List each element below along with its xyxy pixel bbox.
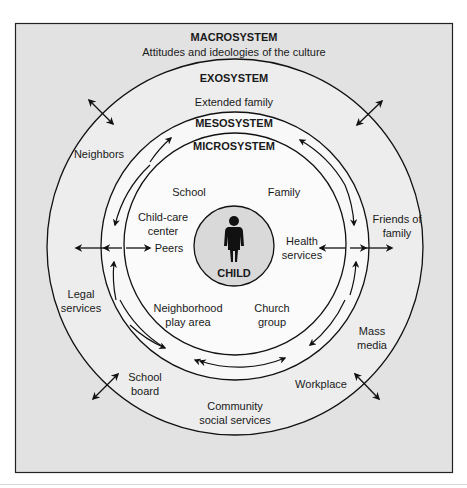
label-family: Family (268, 186, 301, 198)
label-school-board-1: School (128, 371, 162, 383)
label-neighborhood-1: Neighborhood (153, 302, 222, 314)
bottom-rule (0, 484, 467, 485)
label-neighborhood-2: play area (165, 316, 211, 328)
mesosystem-title: MESOSYSTEM (195, 117, 273, 129)
macrosystem-subtitle: Attitudes and ideologies of the culture (142, 46, 325, 58)
label-legal-1: Legal (68, 288, 95, 300)
microsystem-title: MICROSYSTEM (193, 140, 275, 152)
label-neighbors: Neighbors (74, 148, 125, 160)
label-community-2: social services (199, 414, 271, 426)
bronfenbrenner-diagram: CHILD MACROSYSTEM Attitudes and ideologi… (0, 0, 467, 488)
label-community-1: Community (207, 400, 263, 412)
label-childcare-1: Child-care (138, 211, 188, 223)
label-extended-family: Extended family (195, 96, 274, 108)
label-friends-1: Friends of (373, 213, 423, 225)
label-peers: Peers (155, 242, 184, 254)
label-church-2: group (258, 316, 286, 328)
label-church-1: Church (254, 302, 289, 314)
label-health-2: services (282, 249, 323, 261)
macrosystem-title: MACROSYSTEM (191, 31, 278, 43)
label-friends-2: family (383, 227, 412, 239)
label-school: School (172, 186, 206, 198)
label-workplace: Workplace (295, 378, 347, 390)
child-label: CHILD (217, 267, 251, 279)
label-school-board-2: board (131, 385, 159, 397)
label-legal-2: services (61, 302, 102, 314)
exosystem-title: EXOSYSTEM (200, 72, 268, 84)
label-mass-1: Mass (359, 325, 386, 337)
label-childcare-2: center (148, 225, 179, 237)
label-health-1: Health (286, 235, 318, 247)
label-mass-2: media (357, 339, 388, 351)
